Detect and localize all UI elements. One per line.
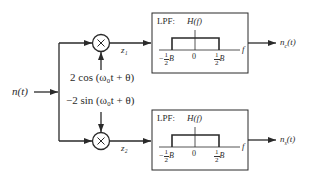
ns-output-label: ns(t) — [280, 135, 295, 146]
top-lpf-response — [159, 30, 240, 50]
input-label: n(t) — [12, 86, 28, 97]
top-lpf-tick-center: 0 — [192, 53, 196, 61]
cos-oscillator-label: 2 cos (ω₀t + θ) — [70, 72, 134, 83]
z1-label: z₁ — [121, 46, 128, 55]
bottom-lpf-response — [159, 127, 240, 147]
top-lpf-tick-right: 12B — [214, 52, 224, 67]
top-lpf-axis-label: f — [242, 45, 245, 54]
bottom-lpf-tick-center: 0 — [192, 150, 196, 158]
bottom-lpf-tick-right: 12B — [214, 149, 224, 164]
z2-label: z₂ — [121, 144, 128, 153]
top-lpf-title: LPF: — [157, 17, 175, 26]
top-lpf-response-label: H(f) — [187, 17, 202, 26]
sin-oscillator-label: −2 sin (ω₀t + θ) — [66, 95, 134, 106]
top-lpf-tick-left: −12B — [159, 52, 174, 67]
bottom-lpf-axis-label: f — [242, 142, 245, 151]
nc-output-label: nc(t) — [280, 38, 296, 49]
bottom-lpf-tick-left: −12B — [159, 149, 174, 164]
bottom-lpf-response-label: H(f) — [187, 114, 202, 123]
bottom-lpf-title: LPF: — [157, 114, 175, 123]
